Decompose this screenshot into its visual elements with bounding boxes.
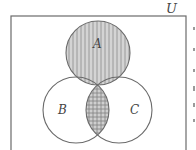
- venn-diagram: U A B C: [0, 0, 196, 150]
- set-c-label: C: [130, 103, 139, 117]
- set-b-label: B: [57, 103, 67, 117]
- cropped-text-fragments: [193, 27, 195, 122]
- set-a-label: A: [92, 37, 102, 51]
- universe-label: U: [166, 1, 178, 16]
